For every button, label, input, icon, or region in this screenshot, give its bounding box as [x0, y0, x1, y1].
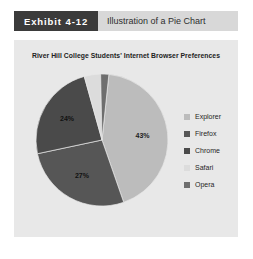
legend-item-safari[interactable]: Safari: [184, 159, 244, 176]
legend-swatch-icon: [184, 114, 190, 120]
exhibit-caption-bar: Illustration of a Pie Chart: [98, 11, 238, 31]
exhibit-number-tag: Exhibit 4-12: [14, 11, 98, 31]
pie-chart: 43%27%24%4%2%: [34, 72, 170, 208]
legend-item-label: Opera: [195, 181, 214, 188]
legend-swatch-icon: [184, 182, 190, 188]
exhibit-header: Exhibit 4-12 Illustration of a Pie Chart: [14, 11, 238, 31]
legend-item-firefox[interactable]: Firefox: [184, 125, 244, 142]
chart-panel: River Hill College Students' Internet Br…: [14, 40, 238, 237]
legend-item-chrome[interactable]: Chrome: [184, 142, 244, 159]
legend-swatch-icon: [184, 165, 190, 171]
pie-slice-label: 43%: [136, 132, 151, 139]
chart-title: River Hill College Students' Internet Br…: [14, 52, 238, 59]
legend-item-label: Safari: [195, 164, 213, 171]
pie-slice-label: 24%: [60, 115, 75, 122]
legend-item-label: Chrome: [195, 147, 220, 154]
legend-item-opera[interactable]: Opera: [184, 176, 244, 193]
exhibit-caption-text: Illustration of a Pie Chart: [107, 16, 206, 26]
pie-slice-group: [36, 74, 168, 206]
pie-chart-svg: 43%27%24%4%2%: [34, 72, 170, 208]
legend-item-label: Firefox: [195, 130, 216, 137]
legend-item-label: Explorer: [195, 113, 221, 120]
pie-slice-label: 27%: [75, 172, 90, 179]
chart-legend: Explorer Firefox Chrome Safari Opera: [184, 108, 244, 193]
legend-swatch-icon: [184, 131, 190, 137]
legend-item-explorer[interactable]: Explorer: [184, 108, 244, 125]
legend-swatch-icon: [184, 148, 190, 154]
